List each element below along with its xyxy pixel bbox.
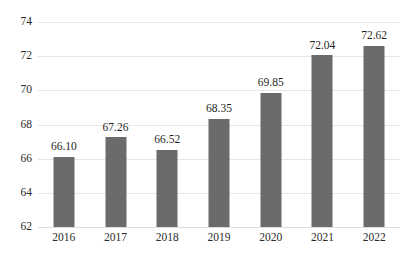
y-axis-tick-label: 70 — [2, 85, 32, 97]
x-axis: 2016201720182019202020212022 — [38, 232, 400, 252]
bar-group: 66.10 — [38, 22, 90, 227]
bar[interactable] — [105, 137, 126, 227]
bar-value-label: 66.52 — [154, 134, 180, 146]
y-axis-tick-label: 62 — [2, 221, 32, 233]
bar[interactable] — [157, 150, 178, 227]
bar-value-label: 67.26 — [103, 122, 129, 134]
bar[interactable] — [312, 55, 333, 227]
x-axis-tick-label: 2018 — [156, 232, 179, 244]
y-axis-tick-label: 74 — [2, 16, 32, 28]
y-axis-tick-label: 66 — [2, 153, 32, 165]
bar[interactable] — [364, 46, 385, 227]
bar-value-label: 68.35 — [206, 103, 232, 115]
x-axis-tick-label: 2022 — [363, 232, 386, 244]
bar[interactable] — [208, 119, 229, 227]
y-axis: 62646668707274 — [0, 22, 32, 227]
gridline — [38, 227, 400, 228]
bar-chart: 62646668707274 66.1067.2666.5268.3569.85… — [0, 0, 412, 266]
bar-group: 67.26 — [90, 22, 142, 227]
x-axis-tick-label: 2021 — [311, 232, 334, 244]
bar-value-label: 72.62 — [361, 30, 387, 42]
x-axis-tick-label: 2017 — [104, 232, 127, 244]
bar-value-label: 72.04 — [309, 40, 335, 52]
y-axis-tick-label: 68 — [2, 119, 32, 131]
y-axis-tick-label: 64 — [2, 187, 32, 199]
bar-group: 72.04 — [297, 22, 349, 227]
bar-value-label: 69.85 — [258, 77, 284, 89]
x-axis-tick-label: 2020 — [259, 232, 282, 244]
bar-group: 72.62 — [348, 22, 400, 227]
x-axis-tick-label: 2016 — [52, 232, 75, 244]
bar-group: 66.52 — [141, 22, 193, 227]
bar[interactable] — [53, 157, 74, 227]
bar-value-label: 66.10 — [51, 141, 77, 153]
bar-group: 68.35 — [193, 22, 245, 227]
x-axis-tick-label: 2019 — [208, 232, 231, 244]
y-axis-tick-label: 72 — [2, 50, 32, 62]
bar[interactable] — [260, 93, 281, 227]
plot-area: 66.1067.2666.5268.3569.8572.0472.62 — [38, 22, 400, 227]
bar-group: 69.85 — [245, 22, 297, 227]
